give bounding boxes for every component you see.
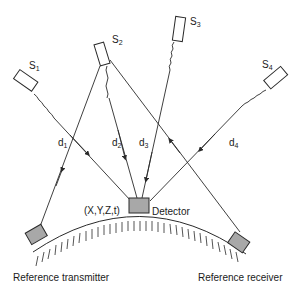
satellite-s3 bbox=[172, 16, 185, 41]
reference-receiver-device bbox=[228, 232, 250, 253]
reference-receiver-label: Reference receiver bbox=[198, 273, 282, 283]
earth-surface bbox=[33, 216, 246, 266]
satellite-s2 bbox=[94, 42, 110, 66]
detector-device bbox=[129, 198, 149, 213]
distance-label-d1: d1 bbox=[58, 138, 67, 149]
satellite-label-s4: S4 bbox=[262, 60, 273, 71]
distance-label-d2: d2 bbox=[112, 138, 121, 149]
satellite-label-s2: S2 bbox=[112, 35, 123, 46]
coordinates-label: (X,Y,Z,t) bbox=[84, 206, 120, 216]
satellite-label-s3: S3 bbox=[190, 17, 201, 28]
distance-label-d4: d4 bbox=[229, 138, 238, 149]
distance-label-d3: d3 bbox=[139, 138, 148, 149]
satellite-s1 bbox=[14, 70, 38, 92]
reference-transmitter-device bbox=[25, 224, 47, 244]
reference-transmitter-label: Reference transmitter bbox=[13, 273, 109, 283]
diagram-canvas bbox=[0, 0, 308, 294]
detector-label: Detector bbox=[152, 207, 190, 217]
satellite-label-s1: S1 bbox=[29, 61, 40, 72]
